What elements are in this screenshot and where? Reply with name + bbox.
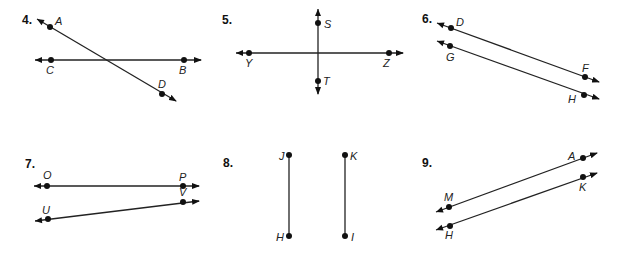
problem-9: 9.AMKH (422, 150, 597, 241)
point-label: H (445, 229, 453, 241)
arrowhead-icon (436, 207, 444, 213)
problem-8: 8.JKHI (223, 150, 358, 243)
point-label: S (324, 18, 332, 30)
problem-number: 6. (422, 12, 432, 26)
point-M (446, 204, 452, 210)
point-Z (386, 50, 392, 56)
arrowhead-icon (315, 9, 321, 16)
point-T (315, 78, 321, 84)
arrowhead-icon (236, 50, 243, 56)
point-label: A (54, 15, 62, 27)
point-label: M (444, 191, 454, 203)
point-label: I (351, 231, 354, 243)
point-H (286, 233, 292, 239)
problem-number: 5. (222, 13, 232, 27)
point-V (180, 199, 186, 205)
point-J (286, 152, 292, 158)
point-label: Z (382, 57, 391, 69)
point-I (342, 233, 348, 239)
problem-6: 6.DFGH (422, 12, 599, 105)
point-S (315, 20, 321, 26)
point-A (47, 24, 53, 30)
point-C (48, 57, 54, 63)
point-label: D (456, 16, 464, 28)
point-O (44, 183, 50, 189)
line (35, 201, 199, 221)
point-label: U (42, 204, 50, 216)
point-Y (246, 50, 252, 56)
point-B (181, 57, 187, 63)
point-label: B (179, 64, 186, 76)
point-K (580, 174, 586, 180)
point-label: F (582, 62, 590, 74)
point-label: Y (245, 57, 253, 69)
problem-number: 4. (22, 13, 32, 27)
geometry-exercise-sheet: 4.ADCB5.STYZ6.DFGH7.OPVU8.JKHI9.AMKH (0, 0, 624, 254)
problem-number: 8. (223, 156, 233, 170)
arrowhead-icon (437, 41, 445, 47)
line (437, 23, 599, 82)
point-label: K (350, 150, 358, 162)
problem-5: 5.STYZ (222, 9, 403, 94)
arrowhead-icon (437, 23, 445, 29)
point-label: A (567, 150, 575, 162)
arrowhead-icon (35, 57, 42, 63)
point-label: G (446, 51, 455, 63)
arrowhead-icon (436, 225, 444, 231)
point-label: H (568, 93, 576, 105)
line (436, 173, 597, 230)
point-F (582, 74, 588, 80)
problem-number: 7. (25, 157, 35, 171)
problem-7: 7.OPVU (25, 157, 199, 223)
point-D (448, 25, 454, 31)
point-label: O (43, 169, 52, 181)
point-K (342, 152, 348, 158)
problem-4: 4.ADCB (22, 13, 201, 101)
point-label: V (179, 186, 188, 198)
point-label: J (278, 150, 285, 162)
point-U (45, 216, 51, 222)
point-label: H (276, 231, 284, 243)
point-label: K (579, 181, 587, 193)
point-D (159, 91, 165, 97)
point-H (581, 92, 587, 98)
line (437, 41, 599, 99)
point-label: C (46, 64, 54, 76)
arrowhead-icon (34, 183, 41, 189)
point-A (580, 155, 586, 161)
point-label: T (323, 75, 331, 87)
problem-number: 9. (422, 156, 432, 170)
point-label: P (179, 171, 187, 183)
point-label: D (158, 78, 166, 90)
point-G (447, 43, 453, 49)
arrowhead-icon (35, 217, 42, 223)
